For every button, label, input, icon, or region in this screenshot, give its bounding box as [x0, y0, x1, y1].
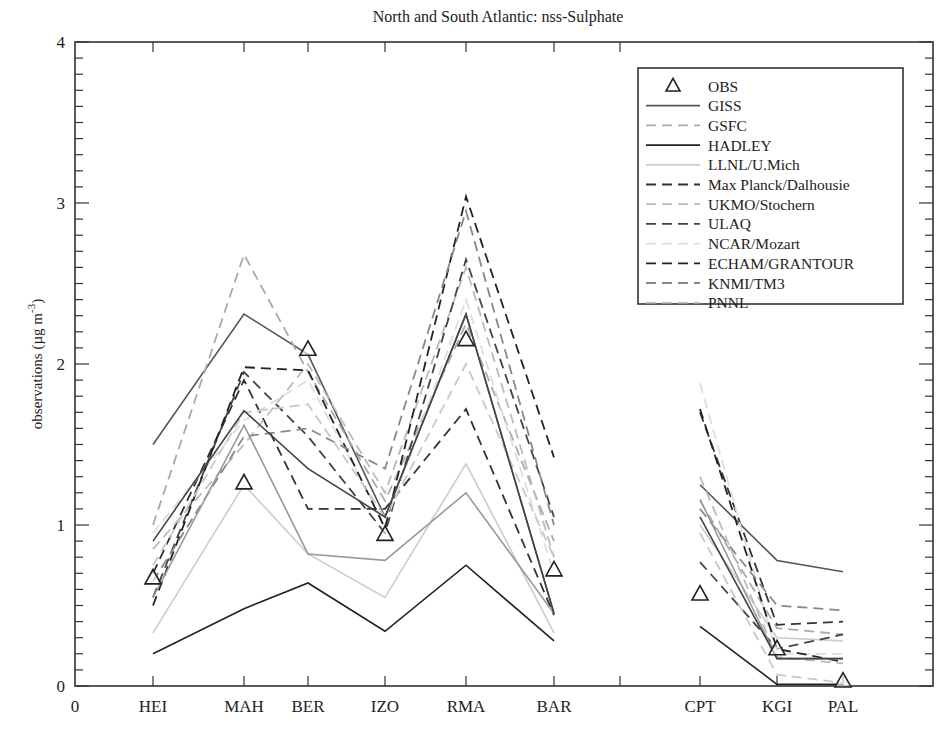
obs-triangle-icon — [692, 586, 708, 600]
chart: North and South Atlantic: nss-Sulphate o… — [0, 0, 951, 737]
series-line-max-planck-dalhousie — [700, 412, 843, 625]
chart-title: North and South Atlantic: nss-Sulphate — [373, 8, 624, 26]
y-tick-label: 3 — [57, 194, 66, 213]
x-tick-label-rma: RMA — [447, 697, 486, 716]
legend-label: KNMI/TM3 — [708, 275, 785, 292]
legend-label: ECHAM/GRANTOUR — [708, 255, 855, 272]
obs-triangle-icon — [546, 561, 562, 575]
y-tick-label: 4 — [57, 33, 66, 52]
series-line-knmi-tm3 — [153, 211, 554, 581]
obs-triangle-icon — [300, 341, 316, 355]
x-tick-label-kgi: KGI — [762, 697, 793, 716]
y-tick-label: 2 — [57, 355, 66, 374]
obs-triangle-icon — [377, 526, 393, 540]
x-tick-label-izo: IZO — [371, 697, 399, 716]
x-tick-label-origin: 0 — [71, 697, 80, 716]
obs-triangle-icon — [145, 569, 161, 583]
x-tick-label-cpt: CPT — [684, 697, 716, 716]
x-tick-label-ber: BER — [291, 697, 325, 716]
svg-text:observations (µg m-3): observations (µg m-3) — [25, 299, 46, 429]
series-line-echam-grantour — [153, 197, 554, 606]
y-tick-label: 1 — [57, 516, 66, 535]
obs-triangle-icon — [835, 673, 851, 687]
legend-label: Max Planck/Dalhousie — [708, 176, 850, 193]
obs-triangle-icon — [236, 475, 252, 489]
series-line-hadley — [153, 565, 554, 654]
legend-label: GISS — [708, 97, 742, 114]
x-tick-label-mah: MAH — [224, 697, 264, 716]
series-line-llnl-u-mich — [153, 464, 554, 633]
legend-label: HADLEY — [708, 137, 772, 154]
series-line-mah-model-solid-grey — [153, 425, 554, 613]
legend-label: NCAR/Mozart — [708, 235, 801, 252]
observation-markers — [145, 331, 851, 687]
y-axis-label-main: observations (µg m — [29, 313, 46, 429]
x-tick-label-hei: HEI — [139, 697, 168, 716]
legend-label: GSFC — [708, 117, 747, 134]
legend-label: UKMO/Stochern — [708, 196, 815, 213]
y-tick-labels: 01234 — [57, 33, 66, 696]
legend-label: OBS — [708, 78, 738, 95]
line-chart: North and South Atlantic: nss-Sulphate o… — [0, 0, 951, 737]
series-line-ncar-mozart — [700, 383, 843, 653]
legend-label: PNNL — [708, 294, 748, 311]
y-axis-label: observations (µg m-3) — [25, 299, 46, 429]
y-axis-label-close: ) — [29, 299, 46, 304]
legend-label: ULAQ — [708, 215, 751, 232]
legend: OBSGISSGSFCHADLEYLLNL/U.MichMax Planck/D… — [638, 68, 903, 311]
series-line-knmi-tm3 — [700, 509, 843, 610]
x-tick-label-bar: BAR — [537, 697, 573, 716]
y-tick-label: 0 — [57, 677, 66, 696]
x-tick-label-pal: PAL — [828, 697, 859, 716]
legend-label: LLNL/U.Mich — [708, 156, 800, 173]
x-tick-labels: 0HEIMAHBERIZORMABARCPTKGIPAL — [71, 697, 859, 716]
